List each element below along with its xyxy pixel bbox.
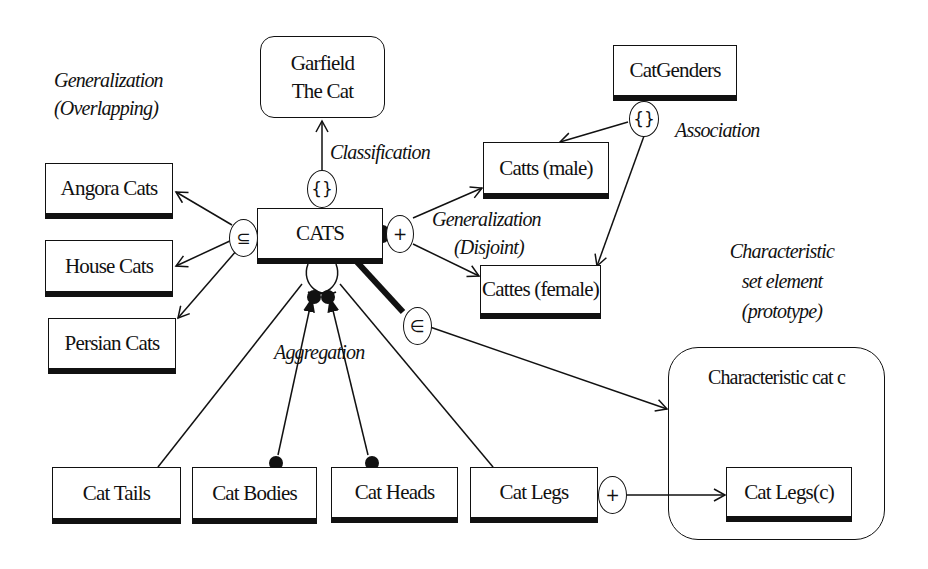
- label-characteristic-set-element: Characteristic set element (prototype): [712, 236, 852, 326]
- aggregation-heads-line: [330, 298, 368, 455]
- overlapping-subset-icon: ⊆: [229, 219, 258, 257]
- association-male-line: [560, 122, 628, 142]
- disjoint-plus-icon: +: [386, 215, 414, 253]
- characteristic-cat-label: Characteristic cat c: [669, 366, 884, 389]
- generalization-angora-line: [176, 192, 232, 225]
- legs-mapping-plus-icon: +: [598, 476, 627, 514]
- entity-cat-bodies[interactable]: Cat Bodies: [192, 467, 317, 524]
- cats-label: CATS: [296, 221, 344, 246]
- aggregation-tails-line: [158, 284, 302, 467]
- char-line2: set element: [712, 266, 852, 296]
- label-aggregation: Aggregation: [274, 338, 364, 366]
- membership-element-icon: ∈: [403, 307, 432, 345]
- gen-disjoint-line2: (Disjoint): [432, 233, 541, 261]
- membership-thick-line: [357, 262, 403, 312]
- entity-cattes-female[interactable]: Cattes (female): [480, 265, 601, 319]
- entity-house-cats[interactable]: House Cats: [45, 240, 173, 297]
- gen-overlap-line2: (Overlapping): [54, 94, 163, 122]
- entity-persian-cats[interactable]: Persian Cats: [48, 318, 176, 374]
- classification-set-icon: {}: [307, 170, 337, 208]
- catts-male-label: Catts (male): [499, 156, 593, 181]
- catgenders-label: CatGenders: [629, 58, 720, 83]
- garfield-label-line1: Garfield: [291, 49, 355, 77]
- persian-label: Persian Cats: [65, 331, 160, 356]
- label-classification: Classification: [330, 138, 430, 166]
- gen-overlap-line1: Generalization: [54, 66, 163, 94]
- cat-heads-label: Cat Heads: [355, 480, 435, 505]
- cat-tails-label: Cat Tails: [83, 481, 150, 506]
- char-line3: (prototype): [712, 296, 852, 326]
- cat-legs-c-label: Cat Legs(c): [744, 480, 834, 505]
- garfield-label-line2: The Cat: [292, 77, 353, 105]
- entity-angora-cats[interactable]: Angora Cats: [45, 163, 173, 219]
- angora-label: Angora Cats: [61, 176, 158, 201]
- entity-cat-legs-c[interactable]: Cat Legs(c): [726, 467, 852, 522]
- aggregation-dot-left: [307, 290, 321, 304]
- aggregation-cross: [306, 264, 337, 294]
- entity-cat-tails[interactable]: Cat Tails: [52, 467, 181, 524]
- membership-line: [430, 327, 667, 409]
- aggregation-bodies-line: [278, 298, 312, 455]
- cat-legs-label: Cat Legs: [500, 480, 569, 505]
- generalization-house-line: [176, 240, 232, 266]
- house-label: House Cats: [65, 254, 153, 279]
- cat-bodies-label: Cat Bodies: [212, 481, 297, 506]
- label-association: Association: [675, 116, 760, 144]
- entity-catgenders[interactable]: CatGenders: [613, 45, 737, 101]
- entity-cat-heads[interactable]: Cat Heads: [331, 467, 458, 523]
- gen-disjoint-line1: Generalization: [432, 205, 541, 233]
- association-set-icon: {}: [629, 101, 659, 137]
- aggregation-dot-right: [321, 290, 335, 304]
- cattes-female-label: Cattes (female): [482, 277, 599, 302]
- entity-cats[interactable]: CATS: [257, 208, 383, 264]
- label-generalization-disjoint: Generalization (Disjoint): [432, 205, 541, 261]
- label-generalization-overlapping: Generalization (Overlapping): [54, 66, 163, 122]
- entity-garfield-the-cat[interactable]: Garfield The Cat: [260, 36, 385, 118]
- entity-cat-legs[interactable]: Cat Legs: [470, 467, 598, 523]
- char-line1: Characteristic: [712, 236, 852, 266]
- entity-catts-male[interactable]: Catts (male): [483, 142, 609, 199]
